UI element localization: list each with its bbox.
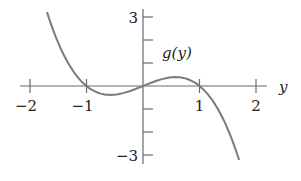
x-tick-label: −1: [71, 97, 93, 115]
chart-plot: −2−112−33 g(y) y: [0, 0, 301, 181]
tick-labels: −2−112−33: [15, 9, 261, 165]
x-tick-label: 1: [195, 97, 205, 115]
x-tick-label: 2: [251, 97, 261, 115]
y-tick-label: −3: [116, 147, 138, 165]
function-label: g(y): [162, 44, 192, 62]
x-tick-label: −2: [15, 97, 37, 115]
y-tick-label: 3: [128, 9, 138, 27]
x-axis-label: y: [278, 78, 288, 96]
